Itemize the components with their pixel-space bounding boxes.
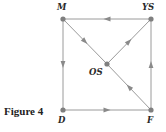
edge-m-to-d: [61, 19, 66, 110]
arrowhead-icon: [61, 61, 66, 68]
node-os: [104, 61, 109, 66]
edge-m-to-os: [63, 19, 107, 64]
node-label-f: F: [147, 116, 153, 125]
arrowhead-icon: [149, 61, 154, 68]
node-m: [60, 16, 65, 21]
node-d: [60, 107, 65, 112]
edge-ys-to-m: [63, 17, 151, 22]
edge-d-to-f: [63, 108, 151, 113]
directed-graph-figure: M YS OS D F Figure 4: [0, 0, 166, 132]
edge-f-to-ys: [149, 19, 154, 110]
node-label-ys: YS: [142, 3, 154, 12]
edge-os-to-ys: [107, 19, 151, 64]
edge-f-to-os: [107, 64, 151, 110]
node-f: [148, 107, 153, 112]
node-label-d: D: [58, 116, 65, 125]
node-ys: [148, 16, 153, 21]
node-label-os: OS: [89, 68, 103, 77]
arrowhead-icon: [104, 108, 111, 113]
node-label-m: M: [57, 3, 66, 12]
arrowhead-icon: [104, 17, 111, 22]
figure-caption: Figure 4: [4, 105, 43, 117]
